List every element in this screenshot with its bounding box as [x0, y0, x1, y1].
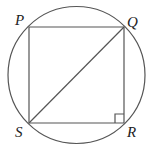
vertex-label-s: S — [15, 124, 23, 140]
geometry-diagram: P Q R S — [0, 0, 151, 151]
right-angle-marker-icon — [115, 114, 124, 123]
diagonal-qs — [29, 27, 124, 123]
vertex-label-q: Q — [127, 14, 138, 30]
vertex-label-p: P — [14, 12, 24, 28]
vertex-label-r: R — [126, 124, 136, 140]
